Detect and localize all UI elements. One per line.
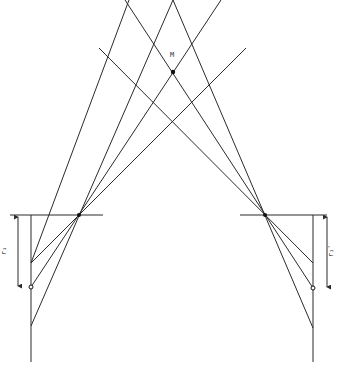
ray-line-right-mid <box>173 0 313 328</box>
ray-line-right-outer <box>125 0 313 288</box>
left-projection-circle <box>29 285 33 289</box>
right-station: r₁' <box>240 213 335 362</box>
ray-diagram: r₁ r₁' M <box>0 0 337 374</box>
right-pivot-dot <box>263 213 267 217</box>
right-distance-label: r₁' <box>327 245 335 258</box>
ray-line-left-outer <box>31 0 129 263</box>
left-station: r₁ <box>0 213 103 362</box>
ray-line-right-shallow <box>99 48 313 263</box>
ray-lines <box>31 0 313 328</box>
diagram-canvas: r₁ r₁' M <box>0 0 337 374</box>
left-pivot-dot <box>77 213 81 217</box>
left-distance-label: r₁ <box>0 247 8 255</box>
point-m-label: M <box>170 51 174 59</box>
right-projection-circle <box>311 286 315 290</box>
point-m-dot <box>171 70 175 74</box>
ray-line-left-center <box>31 0 221 287</box>
ray-line-left-mid <box>31 0 173 326</box>
